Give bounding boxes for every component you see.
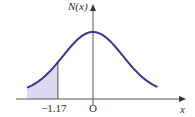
x-axis-label: x <box>179 103 185 115</box>
cutoff-tick-label: −1.17 <box>41 102 67 114</box>
y-axis-label: N(x) <box>67 0 88 13</box>
chart: N(x) x O −1.17 <box>0 0 195 117</box>
origin-label: O <box>89 102 97 114</box>
y-axis-arrow <box>90 4 96 11</box>
x-axis-arrow <box>179 96 186 102</box>
